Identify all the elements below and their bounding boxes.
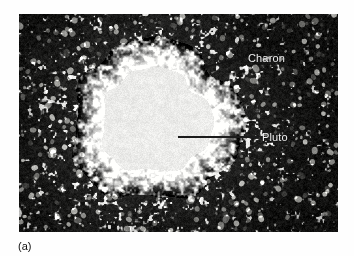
figure-container: Charon Pluto (a): [0, 0, 354, 256]
annotation-label-pluto: Pluto: [262, 131, 288, 143]
figure-caption-label: (a): [18, 240, 31, 253]
annotation-label-charon: Charon: [248, 52, 285, 64]
photo-grain-canvas: [19, 14, 338, 232]
astronomy-photo-plate: [19, 14, 338, 232]
